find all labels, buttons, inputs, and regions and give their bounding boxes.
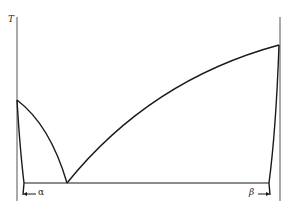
liquidus-right [67, 45, 279, 183]
phase-diagram [0, 0, 292, 201]
alpha-label: α [38, 187, 44, 197]
liquidus-left [17, 100, 67, 183]
solidus-beta [269, 45, 279, 195]
beta-label: β [249, 187, 254, 197]
y-axis-label: T [8, 14, 14, 24]
solidus-alpha [17, 100, 24, 195]
